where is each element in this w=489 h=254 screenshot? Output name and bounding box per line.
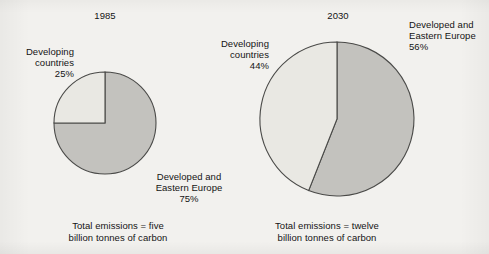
pie-slice-developing-1985 <box>54 72 105 123</box>
label-developed-eastern-europe-2030: Developed and Eastern Europe 56% <box>409 19 489 53</box>
label-developing-countries-2030: Developing countries 44% <box>193 38 269 72</box>
label-developed-eastern-europe-1985: Developed and Eastern Europe 75% <box>143 171 235 205</box>
pie-1985-svg <box>54 72 156 174</box>
label-developing-countries-1985: Developing countries 25% <box>2 46 74 80</box>
emissions-pie-figure: 1985 Developing countries 25% Developed … <box>0 0 489 254</box>
chart-title-2030: 2030 <box>288 10 388 21</box>
pie-2030-svg <box>260 42 414 196</box>
caption-total-emissions-1985: Total emissions = five billion tonnes of… <box>42 220 194 243</box>
caption-total-emissions-2030: Total emissions = twelve billion tonnes … <box>245 220 409 243</box>
chart-title-1985: 1985 <box>55 10 155 21</box>
pie-chart-1985 <box>54 72 156 174</box>
pie-chart-2030 <box>260 42 414 196</box>
